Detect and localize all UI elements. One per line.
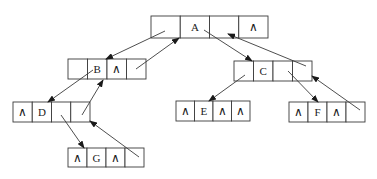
arrow-D-parent-to-B xyxy=(82,80,103,115)
null-pointer-symbol: ∧ xyxy=(236,104,245,118)
null-pointer-symbol: ∧ xyxy=(294,105,303,119)
node-B: B∧ xyxy=(68,59,146,79)
node-G: ∧G∧ xyxy=(68,148,144,167)
pointer-arrows xyxy=(48,30,360,157)
null-pointer-symbol: ∧ xyxy=(112,62,121,76)
null-pointer-symbol: ∧ xyxy=(249,20,258,34)
tree-diagram: A∧B∧C∧D∧E∧∧∧F∧∧G∧ xyxy=(0,0,377,179)
node-label: F xyxy=(314,106,320,118)
null-pointer-symbol: ∧ xyxy=(18,105,27,119)
node-label: C xyxy=(260,65,267,77)
node-D-cell-3 xyxy=(71,102,90,122)
node-label: E xyxy=(200,105,207,117)
node-D: ∧D xyxy=(13,102,90,122)
node-A-cell-2 xyxy=(210,16,239,38)
node-A: A∧ xyxy=(151,16,268,38)
tree-nodes: A∧B∧C∧D∧E∧∧∧F∧∧G∧ xyxy=(13,16,365,167)
arrow-B-parent-to-A xyxy=(136,38,179,69)
node-C-cell-0 xyxy=(234,61,254,81)
null-pointer-symbol: ∧ xyxy=(218,104,227,118)
arrow-C-left-to-E xyxy=(209,75,245,101)
node-label: D xyxy=(38,106,46,118)
node-label: A xyxy=(191,21,199,33)
node-label: G xyxy=(93,152,101,164)
node-D-cell-2 xyxy=(52,102,71,122)
null-pointer-symbol: ∧ xyxy=(73,151,82,165)
node-label: B xyxy=(94,63,101,75)
node-F-cell-3 xyxy=(346,102,365,122)
node-C-cell-2 xyxy=(273,61,293,81)
null-pointer-symbol: ∧ xyxy=(181,104,190,118)
null-pointer-symbol: ∧ xyxy=(332,105,341,119)
node-A-cell-0 xyxy=(151,16,180,38)
null-pointer-symbol: ∧ xyxy=(111,151,120,165)
node-G-cell-3 xyxy=(125,148,144,167)
diagram-svg: A∧B∧C∧D∧E∧∧∧F∧∧G∧ xyxy=(0,0,377,179)
node-E: ∧E∧∧ xyxy=(176,101,250,121)
